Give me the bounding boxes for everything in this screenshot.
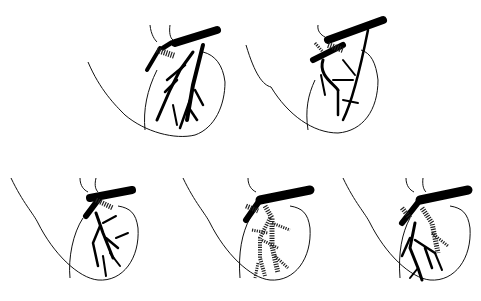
- heart-vessel-drawing: [243, 5, 393, 140]
- main-trunk: [260, 190, 310, 200]
- heart-vessel-drawing: [85, 10, 235, 145]
- diagram-panel-top-left: [85, 10, 235, 145]
- heart-vessel-drawing: [8, 178, 158, 298]
- diagram-panel-top-right: [243, 5, 393, 140]
- heart-vessel-drawing: [340, 178, 481, 298]
- diagram-panel-bottom-right: [340, 178, 481, 298]
- heart-outline: [88, 52, 225, 136]
- diagram-panel-bottom-middle: [180, 178, 330, 298]
- main-trunk: [420, 190, 468, 200]
- heart-inner-line: [145, 70, 158, 130]
- heart-vessel-drawing: [180, 178, 330, 298]
- main-trunk: [175, 30, 217, 43]
- main-trunk: [328, 20, 383, 40]
- main-trunk: [90, 190, 132, 198]
- diagram-panel-bottom-left: [8, 178, 158, 298]
